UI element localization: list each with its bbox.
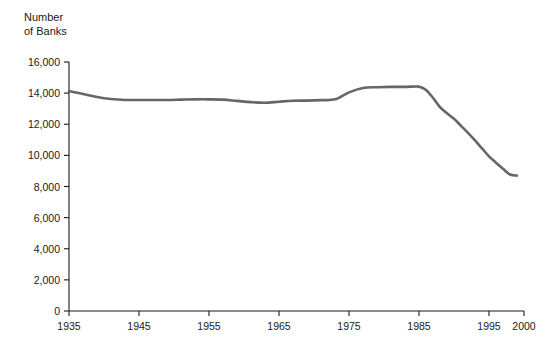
y-tick-label: 6,000 (34, 212, 60, 224)
y-tick-label: 0 (54, 305, 60, 317)
y-tick-label: 10,000 (28, 149, 60, 161)
x-tick-label: 1935 (57, 320, 81, 332)
chart-container: Number of Banks 02,0004,0006,0008,00010,… (0, 0, 555, 343)
x-tick-label: 1965 (267, 320, 291, 332)
y-tick-label: 14,000 (28, 87, 60, 99)
x-tick-label: 2000 (512, 320, 536, 332)
y-axis-ticks: 02,0004,0006,0008,00010,00012,00014,0001… (28, 56, 69, 317)
data-series-line (69, 86, 517, 175)
x-axis-ticks: 19351945195519651975198519952000 (57, 311, 536, 332)
y-tick-label: 12,000 (28, 118, 60, 130)
x-tick-label: 1955 (197, 320, 221, 332)
x-tick-label: 1975 (337, 320, 361, 332)
y-tick-label: 4,000 (34, 243, 60, 255)
chart-plot-area: 02,0004,0006,0008,00010,00012,00014,0001… (0, 0, 555, 343)
y-tick-label: 8,000 (34, 181, 60, 193)
y-tick-label: 2,000 (34, 274, 60, 286)
y-tick-label: 16,000 (28, 56, 60, 68)
x-tick-label: 1945 (127, 320, 151, 332)
x-tick-label: 1995 (477, 320, 501, 332)
x-tick-label: 1985 (407, 320, 431, 332)
